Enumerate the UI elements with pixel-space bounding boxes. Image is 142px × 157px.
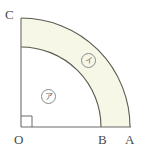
vertex-label-b: B <box>98 133 107 146</box>
region-label-inner: ア <box>41 89 56 104</box>
geometry-figure: C O B A ア イ <box>0 0 142 157</box>
vertex-label-a: A <box>125 133 134 146</box>
region-label-outer: イ <box>81 53 96 68</box>
vertex-label-o: O <box>14 133 23 146</box>
vertex-label-c: C <box>5 8 14 21</box>
